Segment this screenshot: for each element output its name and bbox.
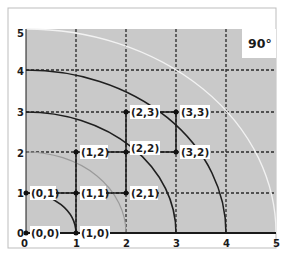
svg-text:90°: 90° [248, 36, 272, 51]
quarter-circle-grid-diagram: (0,0) (1,0) (0,1) (1,1) (2,1) (1,2) (2,2… [0, 0, 284, 264]
svg-text:(2,1): (2,1) [131, 187, 159, 199]
svg-text:(2,2): (2,2) [131, 142, 159, 154]
plot-area [26, 29, 276, 233]
svg-text:(0,1): (0,1) [31, 187, 59, 199]
svg-text:(0,0): (0,0) [31, 227, 59, 239]
svg-text:4: 4 [17, 66, 24, 77]
svg-text:(1,2): (1,2) [81, 146, 109, 158]
svg-text:4: 4 [223, 238, 230, 249]
svg-text:0: 0 [21, 238, 28, 249]
svg-text:5: 5 [273, 238, 280, 249]
svg-text:(3,2): (3,2) [181, 146, 209, 158]
svg-text:(1,0): (1,0) [81, 227, 109, 239]
angle-label: 90° [242, 29, 276, 58]
svg-text:1: 1 [17, 188, 24, 199]
svg-text:0: 0 [17, 228, 24, 239]
svg-text:2: 2 [17, 148, 24, 159]
svg-text:5: 5 [17, 28, 24, 39]
svg-text:3: 3 [17, 107, 24, 118]
svg-text:2: 2 [123, 238, 130, 249]
svg-text:1: 1 [73, 238, 80, 249]
svg-text:3: 3 [173, 238, 180, 249]
svg-text:(2,3): (2,3) [131, 106, 159, 118]
svg-text:(1,1): (1,1) [81, 187, 109, 199]
svg-text:(3,3): (3,3) [181, 106, 209, 118]
